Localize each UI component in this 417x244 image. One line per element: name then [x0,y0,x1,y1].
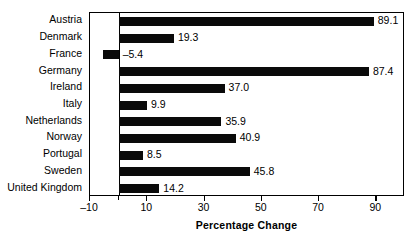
bar [119,17,374,26]
x-tick-label: 90 [370,201,382,213]
bar [119,167,250,176]
bar-value-label: 35.9 [225,116,245,127]
bar-chart: AustriaDenmarkFranceGermanyIrelandItalyN… [0,0,417,244]
x-axis-title: Percentage Change [89,219,404,231]
category-label: Sweden [44,165,82,176]
category-axis-labels: AustriaDenmarkFranceGermanyIrelandItalyN… [0,12,86,196]
category-label: Portugal [43,148,82,159]
category-label: Ireland [50,81,82,92]
bar [119,34,174,43]
category-label: Italy [63,98,82,109]
category-label: Germany [39,65,82,76]
bar [119,84,225,93]
bar-value-label: 40.9 [240,132,260,143]
bar-value-label: 37.0 [229,82,249,93]
bar [119,67,369,76]
x-minor-tick [118,196,119,200]
bar-value-label: 8.5 [147,149,162,160]
plot-area: 89.119.3–5.487.437.09.935.940.98.545.814… [89,12,404,196]
bar [119,184,160,193]
x-tick-label: 10 [140,201,152,213]
bar [103,50,118,59]
bar [119,117,222,126]
bar-value-label: 19.3 [178,32,198,43]
x-tick-label: 70 [312,201,324,213]
category-label: France [49,48,82,59]
bar [119,151,143,160]
x-tick-label: 30 [198,201,210,213]
category-label: Denmark [39,31,82,42]
bar [119,101,147,110]
category-label: Netherlands [25,115,82,126]
bar [119,134,236,143]
bar-value-label: 14.2 [163,183,183,194]
bar-value-label: 87.4 [373,66,393,77]
bar-value-label: 9.9 [151,99,166,110]
bar-value-label: –5.4 [123,49,143,60]
x-tick-label: –10 [80,201,98,213]
category-label: Austria [49,14,82,25]
category-label: United Kingdom [7,182,82,193]
x-axis-ticks [89,196,404,202]
x-tick-label: 50 [255,201,267,213]
category-label: Norway [46,131,82,142]
bar-value-label: 89.1 [378,15,398,26]
bar-value-label: 45.8 [254,166,274,177]
